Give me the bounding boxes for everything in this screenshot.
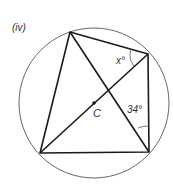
center-point xyxy=(92,101,96,105)
figure-label: (iv) xyxy=(12,22,26,33)
circle-geometry-diagram: (iv) C x° 34° xyxy=(0,0,173,185)
center-label: C xyxy=(93,107,101,119)
diagonal-line xyxy=(70,32,149,152)
quadrilateral xyxy=(40,32,149,153)
angle-x-label: x° xyxy=(115,55,125,66)
angle-34-arc xyxy=(138,126,149,128)
angle-x-arc xyxy=(130,49,134,66)
angle-34-label: 34° xyxy=(127,104,142,115)
